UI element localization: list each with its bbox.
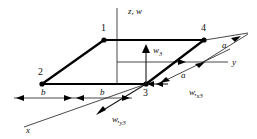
a-lower-arrowhead-left [160, 77, 170, 83]
w3-arrow-group [142, 44, 150, 84]
a-lower-arrowhead-right [195, 62, 205, 68]
b-right-inner-arrowhead [76, 95, 84, 101]
node-dot-1 [101, 37, 106, 42]
node-label-1: 1 [101, 22, 106, 33]
w3-label-subscript: 3 [158, 50, 163, 57]
wy3-label-subscript: y3 [119, 119, 127, 126]
node-dot-2 [39, 81, 44, 86]
node-label-3: 3 [143, 87, 148, 98]
wy3-arrowhead [96, 106, 106, 115]
a-label-upper: a [222, 40, 227, 50]
wx3-label-base: w, [189, 87, 197, 97]
a-label-lower: a [181, 70, 186, 80]
x-axis-label: x [25, 125, 30, 135]
figure-canvas: z, w y x 1 2 3 4 w3 w,x3 w,y3 b b a a [0, 0, 257, 139]
plate-edge-1-2 [42, 40, 104, 84]
wy3-label: w,y3 [112, 114, 126, 126]
b-left-outer-arrowhead [16, 95, 24, 101]
wx3-label-subscript: x3 [196, 92, 204, 99]
z-axis-label: z, w [127, 6, 142, 16]
node-label-4: 4 [201, 22, 206, 33]
node-label-2: 2 [38, 66, 43, 77]
wx3-label: w,x3 [189, 87, 203, 99]
plate-element-figure: z, w y x 1 2 3 4 w3 w,x3 w,y3 b b a a [0, 0, 257, 139]
b-label-left: b [41, 87, 46, 97]
b-dimension-group [14, 95, 132, 101]
w3-arrowhead [142, 44, 150, 53]
wy3-label-base: w, [112, 114, 120, 124]
a-upper-tick-line [205, 33, 248, 40]
b-label-right: b [100, 87, 105, 97]
w3-label: w3 [153, 45, 163, 57]
y-axis-label: y [231, 57, 236, 67]
b-left-inner-arrowhead [64, 95, 72, 101]
